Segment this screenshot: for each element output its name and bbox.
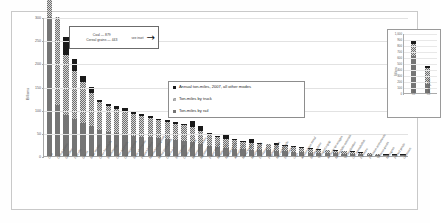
x-axis-tick-labels: CoalCereal grainsGasolineFuel oilsGravel… bbox=[43, 157, 408, 209]
legend-swatch-icon bbox=[173, 98, 176, 101]
x-tick-slot: Fuel oils bbox=[69, 157, 77, 209]
x-tick-slot: Other ag prods bbox=[112, 157, 120, 209]
stacked-bar bbox=[55, 17, 60, 156]
x-tick-slot: Metallic ores bbox=[213, 157, 221, 209]
inset-x-tick-slot: Cereal grains bbox=[425, 94, 430, 118]
x-tick-slot: Gravel bbox=[78, 157, 86, 209]
bar-segment-truck bbox=[97, 102, 102, 130]
x-tick-slot: Nonmetal min prods bbox=[145, 157, 153, 209]
bar-segment-truck bbox=[173, 124, 178, 141]
x-tick-slot: Animal feed bbox=[230, 157, 238, 209]
inset-y-tick-label: 300 bbox=[397, 75, 404, 78]
legend-item-label: Ton-miles by rail bbox=[179, 109, 209, 114]
bar-segment-truck bbox=[72, 71, 77, 119]
chart-legend: Annual ton-miles, 2007, all other modesT… bbox=[168, 81, 305, 118]
x-tick-slot: Transport equip bbox=[314, 157, 322, 209]
callout-line-cereal: Cereal grains — 443 bbox=[73, 38, 131, 43]
inset-x-tick-label: Coal bbox=[413, 89, 416, 95]
gridline bbox=[44, 18, 408, 19]
legend-item-label: Ton-miles by truck bbox=[179, 97, 212, 102]
y-tick-label: 100 bbox=[35, 109, 44, 113]
callout-see-inset-text: see inset bbox=[132, 36, 144, 40]
inset-y-tick-label: 600 bbox=[397, 57, 404, 60]
inset-x-axis-labels: CoalCereal grains bbox=[403, 94, 437, 118]
x-tick-slot: Waste/scrap bbox=[103, 157, 111, 209]
inset-panel: Billions 1,00090080070060050040030020010… bbox=[387, 29, 441, 118]
stacked-bar bbox=[63, 37, 68, 156]
legend-item[interactable]: Annual ton-miles, 2007, all other modes bbox=[173, 85, 300, 90]
inset-plot-area: 1,0009008007006005004003002001000 bbox=[403, 34, 437, 94]
legend-item-label: Annual ton-miles, 2007, all other modes bbox=[179, 85, 251, 90]
inset-y-tick-label: 1,000 bbox=[395, 33, 404, 36]
bar-segment-truck bbox=[131, 114, 136, 135]
x-tick-slot: Building stone bbox=[306, 157, 314, 209]
x-tick-slot: Fertilizers bbox=[255, 157, 263, 209]
inset-gridline bbox=[404, 64, 437, 65]
stacked-bar bbox=[47, 0, 52, 156]
arrow-right-icon: → bbox=[147, 33, 155, 43]
x-tick-slot: Other foodstuffs bbox=[95, 157, 103, 209]
inset-gridline bbox=[404, 76, 437, 77]
x-tick-slot: Cereal grains bbox=[52, 157, 60, 209]
x-tick-slot: Nonmetallic minerals bbox=[331, 157, 339, 209]
callout-values: Coal — 879 Cereal grains — 443 bbox=[73, 33, 131, 42]
x-tick-slot: Logs bbox=[289, 157, 297, 209]
x-tick-slot: Electronics bbox=[280, 157, 288, 209]
x-tick-slot: Wood prods bbox=[171, 157, 179, 209]
inset-gridline bbox=[404, 70, 437, 71]
bar-segment-rail bbox=[55, 105, 60, 156]
inset-x-tick-slot: Coal bbox=[410, 94, 415, 118]
inset-gridline bbox=[404, 82, 437, 83]
x-tick-slot: Pulp/newsprint bbox=[263, 157, 271, 209]
x-tick-slot: Chemical prods bbox=[120, 157, 128, 209]
bar-segment-rail bbox=[47, 17, 52, 156]
x-tick-slot: Meat/seafood bbox=[247, 157, 255, 209]
x-tick-slot: Crude petroleum bbox=[179, 157, 187, 209]
x-tick-slot: Tobacco prods bbox=[373, 157, 381, 209]
callout-box: Coal — 879 Cereal grains — 443 see inset… bbox=[69, 26, 159, 49]
bar-segment-truck bbox=[55, 17, 60, 105]
chart-frame: Billions 050100150200250300 CoalCereal g… bbox=[11, 11, 418, 210]
inset-gridline bbox=[404, 88, 437, 89]
legend-swatch-icon bbox=[173, 110, 176, 113]
x-tick-slot: Articles-base metal bbox=[297, 157, 305, 209]
y-tick-label: 300 bbox=[35, 16, 44, 20]
gridline bbox=[44, 134, 408, 135]
inset-y-tick-label: 700 bbox=[397, 51, 404, 54]
inset-gridline bbox=[404, 34, 437, 35]
inset-y-tick-label: 400 bbox=[397, 69, 404, 72]
x-tick-slot: Basic chemicals bbox=[128, 157, 136, 209]
legend-item[interactable]: Ton-miles by truck bbox=[173, 97, 300, 102]
inset-y-tick-label: 800 bbox=[397, 45, 404, 48]
stacked-bar bbox=[72, 59, 77, 156]
y-tick-label: 50 bbox=[37, 132, 44, 136]
x-tick-slot: Furniture bbox=[356, 157, 364, 209]
legend-swatch-icon bbox=[173, 86, 176, 89]
x-tick-slot: Plastics/rubber bbox=[137, 157, 145, 209]
y-tick-label: 200 bbox=[35, 62, 44, 66]
x-tick-slot: Milled grain prods bbox=[154, 157, 162, 209]
x-tick-slot: Base metals bbox=[86, 157, 94, 209]
x-tick-slot: Gasoline bbox=[61, 157, 69, 209]
x-tick-slot: Precision instruments bbox=[365, 157, 373, 209]
bar-segment-truck bbox=[122, 112, 127, 134]
legend-item[interactable]: Ton-miles by rail bbox=[173, 109, 300, 114]
x-tick-slot: Coal-n.e.c. bbox=[162, 157, 170, 209]
y-tick-label: 150 bbox=[35, 86, 44, 90]
x-tick-slot: Unknown bbox=[398, 157, 406, 209]
inset-y-tick-label: 500 bbox=[397, 63, 404, 66]
x-tick-slot: Machinery bbox=[196, 157, 204, 209]
x-tick-slot: Newsprint bbox=[382, 157, 390, 209]
inset-y-tick-label: 900 bbox=[397, 39, 404, 42]
bar-segment-truck bbox=[47, 0, 52, 17]
stacked-bar bbox=[89, 87, 94, 156]
x-tick-slot: Paper articles bbox=[204, 157, 212, 209]
x-tick-slot: Printed prods bbox=[390, 157, 398, 209]
y-tick-label: 250 bbox=[35, 39, 44, 43]
gridline bbox=[44, 64, 408, 65]
inset-x-tick-label: Cereal grains bbox=[428, 78, 431, 95]
x-tick-slot: Motorized vehicles bbox=[187, 157, 195, 209]
y-axis-label: Billions bbox=[26, 88, 30, 100]
x-tick-slot: Coal bbox=[44, 157, 52, 209]
